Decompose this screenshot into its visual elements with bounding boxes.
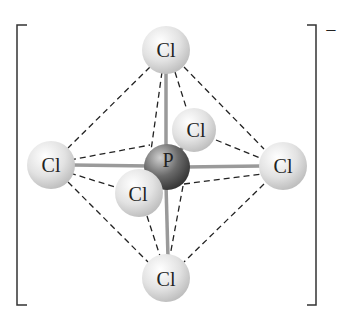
charge-label: −: [325, 19, 336, 41]
atom-cl-front: Cl: [115, 169, 163, 217]
bracket-right: [307, 25, 316, 305]
svg-text:Cl: Cl: [187, 119, 206, 141]
svg-text:Cl: Cl: [157, 39, 176, 61]
molecule-diagram: − Cl Cl Cl Cl: [0, 0, 340, 316]
atom-cl-right: Cl: [259, 142, 307, 190]
atom-cl-left: Cl: [27, 141, 75, 189]
atom-cl-back: Cl: [172, 108, 216, 152]
bracket-left: [17, 25, 27, 305]
atom-cl-bottom: Cl: [142, 254, 190, 302]
svg-text:Cl: Cl: [157, 268, 176, 290]
svg-text:Cl: Cl: [129, 183, 148, 205]
svg-text:P: P: [162, 149, 173, 171]
svg-text:Cl: Cl: [42, 154, 61, 176]
svg-text:Cl: Cl: [274, 155, 293, 177]
atom-cl-top: Cl: [142, 26, 190, 74]
